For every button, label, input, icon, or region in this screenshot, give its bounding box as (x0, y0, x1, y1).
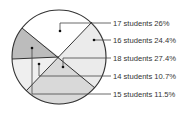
label-18-students: 18 students 27.4% (113, 54, 176, 63)
label-16-students: 16 students 24.4% (113, 36, 176, 45)
label-15-students: 15 students 11.5% (113, 90, 176, 99)
pie-chart: 17 students 26% 16 students 24.4% 18 stu… (0, 0, 186, 113)
label-17-students: 17 students 26% (113, 19, 170, 28)
label-14-students: 14 students 10.7% (113, 72, 176, 81)
